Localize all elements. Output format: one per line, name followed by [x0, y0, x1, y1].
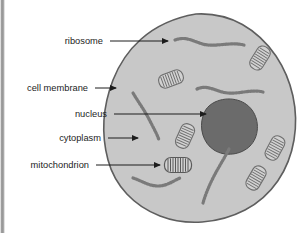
nucleus-shape	[201, 99, 257, 154]
label-ribosome: ribosome	[65, 36, 103, 46]
label-cell-membrane: cell membrane	[27, 83, 88, 93]
cell-diagram-figure: ribosome cell membrane nucleus cytoplasm…	[0, 0, 307, 233]
label-mitochondrion: mitochondrion	[31, 160, 89, 170]
label-cytoplasm: cytoplasm	[59, 133, 101, 143]
mitochondrion-labeled	[165, 158, 192, 173]
label-nucleus: nucleus	[75, 109, 107, 119]
cell-membrane-shape	[104, 14, 296, 222]
